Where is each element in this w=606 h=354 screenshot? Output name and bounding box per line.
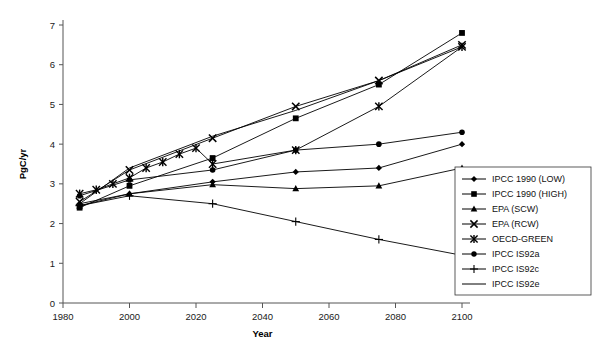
- marker-square: [471, 191, 477, 197]
- legend-label: IPCC IS92e: [492, 279, 540, 289]
- marker-diamond: [293, 169, 299, 175]
- y-tick-label: 6: [50, 59, 55, 70]
- y-tick-label: 0: [50, 298, 55, 309]
- marker-diamond: [376, 165, 382, 171]
- legend-box: [455, 167, 591, 295]
- marker-star: [375, 102, 382, 110]
- legend-label: IPCC 1990 (LOW): [492, 174, 565, 184]
- series-1: [77, 141, 466, 207]
- chart-legend: IPCC 1990 (LOW)IPCC 1990 (HIGH)EPA (SCW)…: [455, 167, 591, 295]
- legend-label: IPCC IS92c: [492, 264, 540, 274]
- series-7: [76, 192, 467, 260]
- x-tick-label: 2060: [318, 311, 339, 322]
- legend-label: IPCC IS92a: [492, 249, 540, 259]
- series-4: [76, 41, 466, 205]
- legend-item[interactable]: IPCC IS92c: [462, 264, 540, 274]
- marker-star: [192, 144, 199, 152]
- x-axis-title: Year: [252, 328, 272, 339]
- x-tick-label: 2080: [385, 311, 406, 322]
- y-tick-label: 4: [50, 139, 55, 150]
- marker-square: [293, 115, 299, 121]
- marker-square: [459, 30, 465, 36]
- series-6: [77, 129, 465, 198]
- series-2: [77, 30, 465, 211]
- series-line: [80, 132, 462, 196]
- y-axis-title: PgC/yr: [17, 148, 28, 179]
- marker-star: [176, 150, 183, 158]
- x-tick-label: 2100: [451, 311, 472, 322]
- marker-plus: [375, 235, 383, 243]
- marker-star: [159, 158, 166, 166]
- marker-circle: [376, 141, 382, 147]
- series-line: [80, 33, 462, 208]
- y-tick-label: 3: [50, 178, 55, 189]
- x-tick-label: 2040: [252, 311, 273, 322]
- y-tick-label: 2: [50, 218, 55, 229]
- x-tick-label: 1980: [52, 311, 73, 322]
- series-line: [80, 196, 462, 256]
- y-tick-label: 5: [50, 99, 55, 110]
- marker-star: [142, 164, 149, 172]
- legend-label: OECD-GREEN: [492, 234, 553, 244]
- marker-star: [109, 180, 116, 188]
- marker-circle: [127, 177, 133, 183]
- legend-label: IPCC 1990 (HIGH): [492, 189, 567, 199]
- marker-square: [127, 183, 133, 189]
- emissions-scenarios-line-chart: 012345671980200020202040206020802100Year…: [0, 0, 606, 354]
- marker-plus: [125, 192, 133, 200]
- marker-circle: [210, 167, 216, 173]
- x-tick-label: 2000: [119, 311, 140, 322]
- chart-figure: 012345671980200020202040206020802100Year…: [0, 0, 606, 354]
- marker-circle: [293, 147, 299, 153]
- y-tick-label: 1: [50, 258, 55, 269]
- series-3: [76, 164, 465, 208]
- marker-circle: [77, 193, 83, 199]
- marker-plus: [209, 200, 217, 208]
- legend-label: EPA (RCW): [492, 219, 539, 229]
- legend-label: EPA (SCW): [492, 204, 538, 214]
- x-tick-label: 2020: [185, 311, 206, 322]
- marker-circle: [471, 251, 476, 256]
- marker-circle: [459, 129, 465, 135]
- y-tick-label: 7: [50, 20, 55, 31]
- marker-diamond: [459, 141, 465, 147]
- marker-plus: [292, 217, 300, 225]
